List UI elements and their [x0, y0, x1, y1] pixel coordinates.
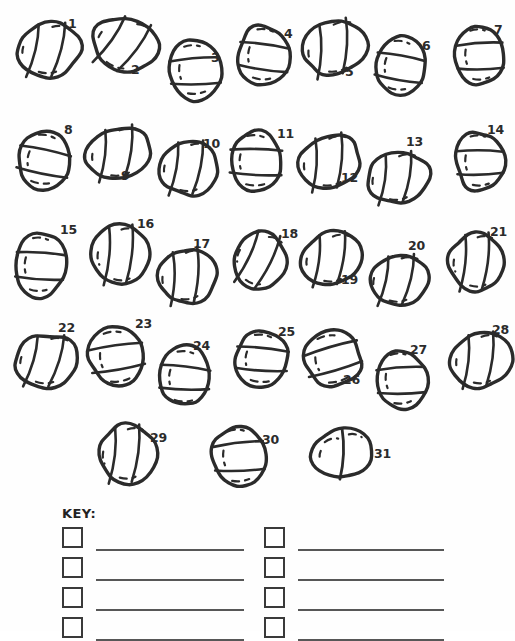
stone-number-label-27: 27 [410, 344, 427, 357]
key-answer-line-left-column-1[interactable] [96, 549, 244, 551]
stone-29[interactable] [85, 412, 168, 495]
stone-outline [84, 323, 147, 390]
stone-3[interactable] [161, 33, 230, 107]
stone-outline [209, 425, 268, 489]
stone-number-label-14: 14 [487, 124, 504, 137]
stone-number-label-29: 29 [150, 432, 167, 445]
stone-number-label-1: 1 [68, 18, 76, 31]
stone-13[interactable] [355, 139, 442, 217]
stone-number-label-16: 16 [137, 218, 154, 231]
stone-outline [375, 349, 430, 412]
stone-number-label-30: 30 [262, 434, 279, 447]
stone-31[interactable] [302, 419, 380, 488]
stone-number-label-21: 21 [490, 226, 507, 239]
stone-17[interactable] [143, 233, 232, 318]
key-checkbox-left-column-3[interactable] [62, 587, 83, 608]
stone-22[interactable] [6, 325, 88, 397]
stone-number-label-28: 28 [492, 324, 509, 337]
stone-outline [366, 251, 433, 310]
key-title: KEY: [62, 506, 96, 521]
stone-number-label-11: 11 [277, 128, 294, 141]
stone-outline [230, 129, 282, 192]
stone-1[interactable] [7, 12, 91, 88]
stone-number-label-2: 2 [131, 64, 139, 77]
stone-number-label-10: 10 [203, 138, 220, 151]
key-answer-line-right-column-3[interactable] [298, 609, 444, 611]
stone-number-label-13: 13 [406, 136, 423, 149]
stone-number-label-24: 24 [193, 340, 210, 353]
key-answer-line-left-column-2[interactable] [96, 579, 244, 581]
stone-number-label-15: 15 [60, 224, 77, 237]
stone-outline [13, 232, 68, 301]
stone-outline [85, 11, 164, 79]
stone-outline [455, 131, 507, 192]
stone-number-label-26: 26 [343, 374, 360, 387]
stone-number-label-22: 22 [58, 322, 75, 335]
stone-number-label-20: 20 [408, 240, 425, 253]
stone-number-label-9: 9 [121, 170, 129, 183]
stone-20[interactable] [357, 243, 441, 317]
stone-number-label-6: 6 [422, 40, 430, 53]
stone-26[interactable] [291, 318, 375, 401]
stone-number-label-19: 19 [341, 274, 358, 287]
stone-30[interactable] [204, 417, 273, 495]
stone-number-label-25: 25 [278, 326, 295, 339]
stone-number-label-8: 8 [64, 124, 72, 137]
key-answer-line-right-column-1[interactable] [298, 549, 444, 551]
key-checkbox-right-column-3[interactable] [264, 587, 285, 608]
stone-number-label-18: 18 [281, 228, 298, 241]
key-checkbox-right-column-1[interactable] [264, 527, 285, 548]
stone-number-label-17: 17 [193, 238, 210, 251]
stone-number-label-4: 4 [284, 28, 292, 41]
key-checkbox-left-column-1[interactable] [62, 527, 83, 548]
stone-number-label-23: 23 [135, 318, 152, 331]
key-checkbox-left-column-4[interactable] [62, 617, 83, 638]
stone-number-label-7: 7 [494, 24, 502, 37]
key-checkbox-left-column-2[interactable] [62, 557, 83, 578]
stone-2[interactable] [79, 3, 171, 88]
stone-number-label-12: 12 [341, 172, 358, 185]
stone-number-label-3: 3 [211, 52, 219, 65]
stone-outline [79, 121, 156, 186]
key-checkbox-right-column-4[interactable] [264, 617, 285, 638]
stone-outline [12, 332, 80, 392]
stone-outline [372, 32, 429, 98]
key-answer-line-right-column-2[interactable] [298, 579, 444, 581]
stone-number-label-31: 31 [374, 448, 391, 461]
key-answer-line-left-column-3[interactable] [96, 609, 244, 611]
key-checkbox-right-column-2[interactable] [264, 557, 285, 578]
stone-number-label-5: 5 [345, 66, 353, 79]
